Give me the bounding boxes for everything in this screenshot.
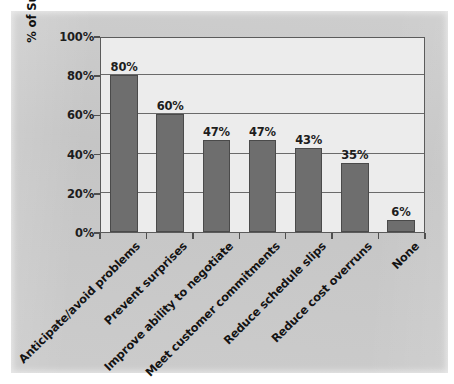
bar-value-label: 47% [249, 125, 276, 139]
x-axis-tick-mark [285, 233, 287, 239]
bar[interactable]: 35% [341, 163, 369, 232]
bar-value-label: 60% [157, 99, 184, 113]
bar-value-label: 6% [391, 205, 410, 219]
bar[interactable]: 43% [295, 148, 323, 232]
bar[interactable]: 47% [249, 140, 277, 232]
bar-slot: 47% [239, 38, 285, 232]
x-axis-tick-marks [100, 233, 425, 241]
bar-slot: 43% [286, 38, 332, 232]
x-axis-tick-mark [146, 233, 148, 239]
bar-value-label: 47% [203, 125, 230, 139]
bar[interactable]: 47% [203, 140, 231, 232]
x-axis-tick-mark [192, 233, 194, 239]
bar-value-label: 80% [111, 60, 138, 74]
bar[interactable]: 6% [387, 220, 415, 232]
x-axis-tick-mark [331, 233, 333, 239]
bar-slot: 35% [332, 38, 378, 232]
bar-slot: 60% [147, 38, 193, 232]
plot-area: 80%60%47%47%43%35%6% [100, 37, 425, 233]
bars-container: 80%60%47%47%43%35%6% [101, 38, 424, 232]
chart-figure: % of Survey Respondents 0%20%40%60%80%10… [0, 0, 454, 384]
bar-slot: 6% [378, 38, 424, 232]
x-axis-tick-mark [239, 233, 241, 239]
y-axis-tick-marks [0, 37, 100, 233]
bar-slot: 80% [101, 38, 147, 232]
x-axis-tick-mark [378, 233, 380, 239]
bar[interactable]: 60% [156, 114, 184, 232]
x-axis-tick-mark [424, 233, 426, 239]
bar[interactable]: 80% [110, 75, 138, 232]
bar-value-label: 35% [341, 148, 368, 162]
x-axis-tick-mark [99, 233, 101, 239]
bar-value-label: 43% [295, 133, 322, 147]
bar-slot: 47% [193, 38, 239, 232]
